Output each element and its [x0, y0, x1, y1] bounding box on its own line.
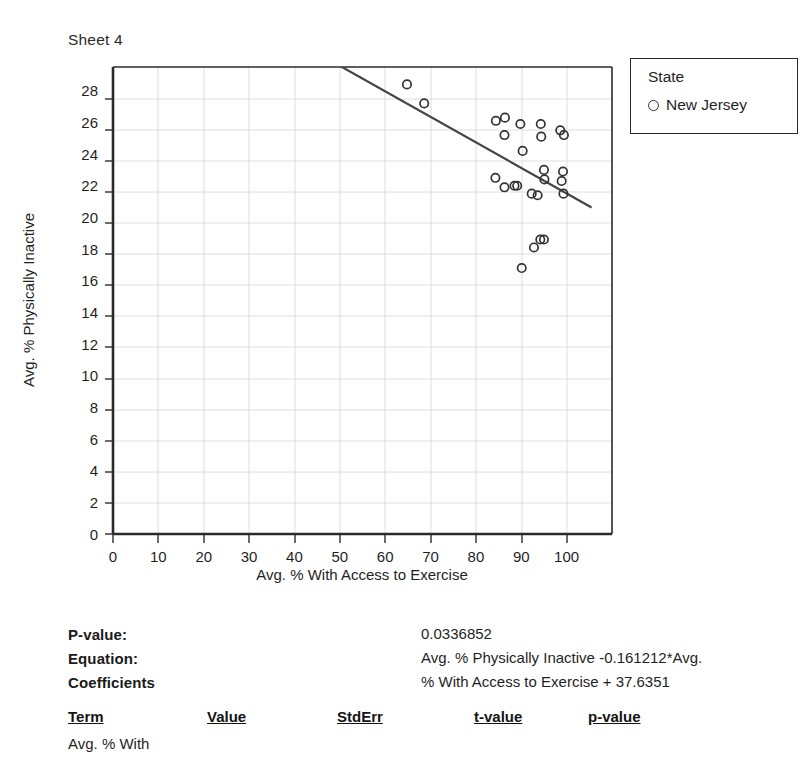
circle-outline-icon — [648, 100, 659, 111]
x-tick-label: 0 — [109, 548, 117, 565]
chart-canvas: 0246810121416182022242628 01020304050607… — [0, 0, 640, 600]
data-point[interactable] — [516, 120, 524, 128]
data-point-group — [403, 80, 568, 272]
data-point[interactable] — [518, 147, 526, 155]
equation-line-2: % With Access to Exercise + 37.6351 — [421, 673, 670, 690]
table-row: Avg. % With — [68, 735, 149, 752]
column-header-term[interactable]: Term — [68, 708, 104, 725]
x-tick-label: 30 — [241, 548, 258, 565]
x-tick-label: 60 — [377, 548, 394, 565]
column-header-t-value[interactable]: t-value — [474, 708, 522, 725]
data-point[interactable] — [537, 120, 545, 128]
regression-stats-panel: P-value: Equation: Coefficients 0.033685… — [0, 612, 811, 757]
y-tick-label: 14 — [81, 304, 98, 321]
x-tick-label: 50 — [331, 548, 348, 565]
y-tick-label: 28 — [81, 82, 98, 99]
y-tick-label: 18 — [81, 241, 98, 258]
data-point[interactable] — [501, 113, 509, 121]
data-point[interactable] — [559, 167, 567, 175]
data-point[interactable] — [530, 243, 538, 251]
equation-line-1: Avg. % Physically Inactive -0.161212*Avg… — [421, 649, 702, 666]
scatter-chart: 0246810121416182022242628 01020304050607… — [0, 0, 640, 600]
x-tick-label: 90 — [513, 548, 530, 565]
y-axis-tick-labels: 0246810121416182022242628 — [81, 82, 98, 542]
data-point[interactable] — [420, 99, 428, 107]
legend-item-new-jersey[interactable]: New Jersey — [648, 96, 747, 114]
data-point[interactable] — [537, 132, 545, 140]
y-tick-label: 6 — [90, 431, 98, 448]
data-point[interactable] — [557, 177, 565, 185]
data-point[interactable] — [500, 131, 508, 139]
x-axis-title: Avg. % With Access to Exercise — [256, 566, 467, 583]
y-axis-title: Avg. % Physically Inactive — [20, 213, 37, 387]
x-tick-label: 80 — [468, 548, 485, 565]
chart-legend: State New Jersey — [630, 58, 798, 134]
coefficients-label: Coefficients — [68, 674, 155, 691]
pvalue-value: 0.0336852 — [421, 625, 492, 642]
x-axis-tick-labels: 0102030405060708090100 — [109, 548, 579, 565]
x-tick-label: 40 — [286, 548, 303, 565]
data-point[interactable] — [491, 174, 499, 182]
y-tick-label: 4 — [90, 462, 98, 479]
x-tick-label: 20 — [195, 548, 212, 565]
y-tick-label: 12 — [81, 336, 98, 353]
x-axis-ticks — [113, 534, 567, 543]
column-header-value[interactable]: Value — [207, 708, 246, 725]
data-point[interactable] — [540, 166, 548, 174]
legend-title: State — [648, 68, 684, 86]
column-header-stderr[interactable]: StdErr — [337, 708, 383, 725]
y-tick-label: 26 — [81, 114, 98, 131]
data-point[interactable] — [492, 117, 500, 125]
x-tick-label: 100 — [554, 548, 579, 565]
y-tick-label: 8 — [90, 399, 98, 416]
y-tick-label: 22 — [81, 177, 98, 194]
y-tick-label: 0 — [90, 526, 98, 543]
equation-label: Equation: — [68, 650, 138, 667]
x-tick-label: 70 — [422, 548, 439, 565]
x-tick-label: 10 — [150, 548, 167, 565]
trend-line — [324, 57, 592, 208]
legend-item-label: New Jersey — [666, 96, 747, 114]
y-tick-label: 2 — [90, 494, 98, 511]
data-point[interactable] — [500, 183, 508, 191]
pvalue-label: P-value: — [68, 626, 127, 643]
y-tick-label: 24 — [81, 146, 98, 163]
y-tick-label: 10 — [81, 367, 98, 384]
column-header-p-value[interactable]: p-value — [588, 708, 641, 725]
y-tick-label: 20 — [81, 209, 98, 226]
y-tick-label: 16 — [81, 272, 98, 289]
data-point[interactable] — [403, 80, 411, 88]
